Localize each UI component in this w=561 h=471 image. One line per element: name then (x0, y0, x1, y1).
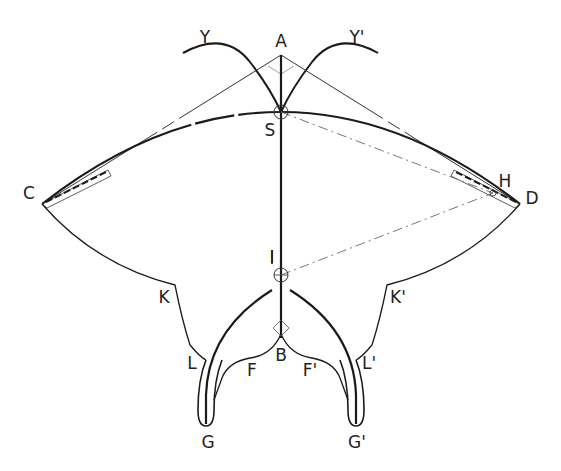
line-i-h (281, 193, 493, 275)
label-b: B (275, 347, 287, 364)
label-f-prime: F' (303, 362, 317, 379)
label-c: C (23, 185, 35, 202)
line-a-c (42, 55, 281, 204)
label-i: I (269, 249, 274, 266)
label-d: D (525, 190, 538, 207)
label-h: H (499, 173, 512, 190)
diagram-lines (0, 0, 561, 471)
sleeve-left-dash (46, 172, 106, 202)
tail-g-prime-inner (290, 290, 356, 424)
outline-left (42, 204, 206, 360)
line-s-h (281, 112, 493, 193)
label-s: S (265, 122, 276, 139)
outline-right (356, 204, 520, 360)
arc-y (183, 43, 281, 112)
tail-g-inner (206, 290, 272, 424)
label-y-prime: Y' (349, 29, 364, 46)
label-a: A (275, 33, 287, 50)
label-l: L (187, 355, 196, 372)
arc-y-prime (281, 43, 378, 112)
label-k: K (158, 289, 169, 306)
label-f: F (247, 362, 257, 379)
label-l-prime: L' (362, 355, 376, 372)
label-y: Y (200, 29, 210, 46)
label-g-prime: G' (348, 434, 366, 451)
label-k-prime: K' (390, 289, 406, 306)
line-a-d (281, 55, 520, 204)
kite-construction-diagram: Y A Y' S C H D I K K' L L' B F F' G G' (0, 0, 561, 471)
label-g: G (201, 434, 214, 451)
